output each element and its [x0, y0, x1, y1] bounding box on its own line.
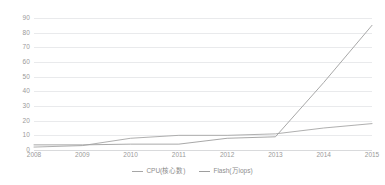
x-axis-tick-label: 2011	[172, 152, 186, 159]
x-axis-tick-label: 2008	[27, 152, 41, 159]
series-lines	[34, 18, 372, 150]
y-axis-tick-label: 60	[4, 59, 30, 66]
line-marker-icon	[199, 171, 210, 173]
x-axis-tick-label: 2009	[75, 152, 89, 159]
x-axis-tick-label: 2015	[365, 152, 379, 159]
y-axis-tick-label: 80	[4, 30, 30, 37]
series-line-2	[34, 25, 372, 145]
line-chart: 0102030405060708090 20082009201020112012…	[0, 0, 385, 185]
legend-label: Flash(万iops)	[213, 168, 252, 175]
y-axis-tick-label: 70	[4, 44, 30, 51]
plot-area	[34, 18, 372, 150]
x-axis-labels: 20082009201020112012201320142015	[34, 152, 372, 164]
y-axis-tick-label: 40	[4, 88, 30, 95]
y-axis-tick-label: 10	[4, 132, 30, 139]
chart-legend: CPU(核心数)Flash(万iops)	[0, 168, 385, 175]
x-axis-tick-label: 2010	[123, 152, 137, 159]
y-axis-tick-label: 50	[4, 74, 30, 81]
y-axis-tick-label: 30	[4, 103, 30, 110]
legend-label: CPU(核心数)	[146, 168, 185, 175]
line-marker-icon	[132, 171, 143, 173]
y-axis-tick-label: 20	[4, 118, 30, 125]
x-axis-tick-label: 2013	[268, 152, 282, 159]
y-axis-labels: 0102030405060708090	[0, 18, 30, 150]
y-axis-tick-label: 90	[4, 15, 30, 22]
legend-item-2[interactable]: Flash(万iops)	[199, 168, 252, 175]
series-line-1	[34, 124, 372, 147]
legend-item-1[interactable]: CPU(核心数)	[132, 168, 185, 175]
x-axis-tick-label: 2012	[220, 152, 234, 159]
x-axis-tick-label: 2014	[316, 152, 330, 159]
